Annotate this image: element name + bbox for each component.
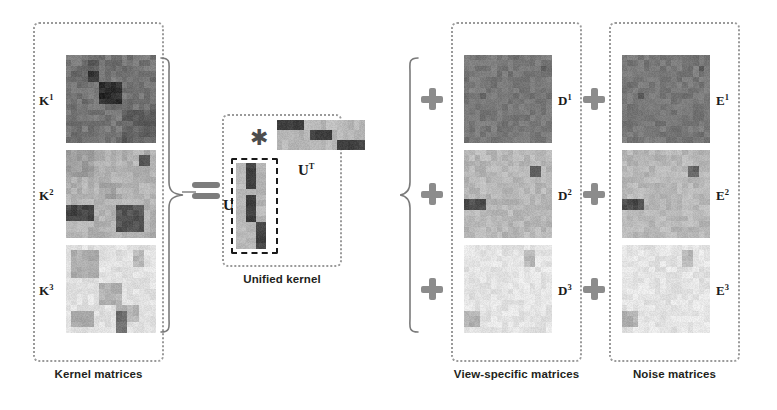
plus-sign-d3 — [421, 278, 443, 300]
plus-sign-d1 — [421, 88, 443, 110]
plus-sign-e3 — [583, 278, 605, 300]
label-K2: K2 — [39, 188, 53, 202]
matrix-E3 — [622, 245, 710, 333]
label-K3: K3 — [39, 283, 53, 297]
label-U-transpose: UT — [298, 162, 315, 178]
brace-kernel-group — [157, 56, 191, 334]
label-D2: D2 — [558, 188, 572, 202]
label-D3: D3 — [558, 283, 572, 297]
matrix-E1 — [622, 55, 710, 143]
plus-sign-e2 — [583, 183, 605, 205]
matrix-U-transpose — [277, 120, 365, 150]
plus-sign-d2 — [421, 183, 443, 205]
caption-unified-kernel: Unified kernel — [222, 273, 342, 285]
matrix-D2 — [464, 150, 552, 238]
asterisk-operator: ✱ — [250, 127, 268, 149]
matrix-U — [236, 163, 266, 249]
label-U: U — [223, 198, 234, 213]
caption-kernel-matrices: Kernel matrices — [33, 368, 164, 380]
brace-view-specific-group — [400, 56, 422, 334]
label-E3: E3 — [716, 283, 729, 297]
label-E2: E2 — [716, 188, 729, 202]
label-K1: K1 — [39, 93, 53, 107]
caption-view-specific-matrices: View-specific matrices — [441, 368, 592, 380]
matrix-E2 — [622, 150, 710, 238]
matrix-D1 — [464, 55, 552, 143]
matrix-K3 — [66, 245, 156, 333]
matrix-D3 — [464, 245, 552, 333]
matrix-K2 — [66, 150, 156, 238]
plus-sign-e1 — [583, 88, 605, 110]
caption-noise-matrices: Noise matrices — [609, 368, 740, 380]
equals-sign — [192, 182, 220, 200]
label-E1: E1 — [716, 93, 729, 107]
figure-canvas: Kernel matrices Unified kernel View-spec… — [0, 0, 777, 410]
matrix-K1 — [66, 55, 156, 143]
label-D1: D1 — [558, 93, 572, 107]
